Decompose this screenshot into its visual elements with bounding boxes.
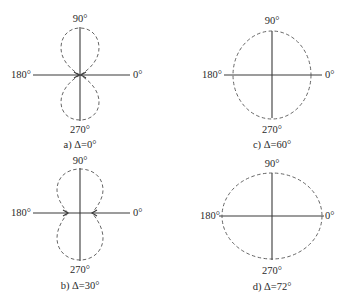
label-270: 270° bbox=[262, 124, 282, 135]
caption: b) Δ=30° bbox=[61, 280, 100, 292]
label-180: 180° bbox=[11, 69, 31, 80]
panel-d: 90° 180° 0° 270° d) Δ=72° bbox=[200, 158, 334, 293]
polar-pattern-figure: 90° 180° 0° 270° a) Δ=0° 90° 180° 0° 270… bbox=[0, 0, 348, 302]
label-90: 90° bbox=[265, 15, 280, 26]
label-0: 0° bbox=[325, 69, 334, 80]
label-180: 180° bbox=[202, 69, 222, 80]
label-180: 180° bbox=[11, 207, 31, 218]
panel-c: 90° 180° 0° 270° c) Δ=60° bbox=[202, 15, 334, 151]
label-90: 90° bbox=[73, 13, 88, 24]
label-270: 270° bbox=[70, 124, 90, 135]
label-90: 90° bbox=[73, 155, 88, 166]
panel-a: 90° 180° 0° 270° a) Δ=0° bbox=[11, 13, 142, 151]
label-0: 0° bbox=[325, 210, 334, 221]
caption: a) Δ=0° bbox=[64, 139, 97, 151]
label-270: 270° bbox=[262, 265, 282, 276]
label-0: 0° bbox=[133, 207, 142, 218]
label-90: 90° bbox=[265, 158, 280, 169]
caption: d) Δ=72° bbox=[253, 281, 292, 293]
panel-b: 90° 180° 0° 270° b) Δ=30° bbox=[11, 155, 142, 292]
label-0: 0° bbox=[133, 69, 142, 80]
caption: c) Δ=60° bbox=[253, 139, 291, 151]
label-180: 180° bbox=[200, 210, 220, 221]
label-270: 270° bbox=[70, 264, 90, 275]
